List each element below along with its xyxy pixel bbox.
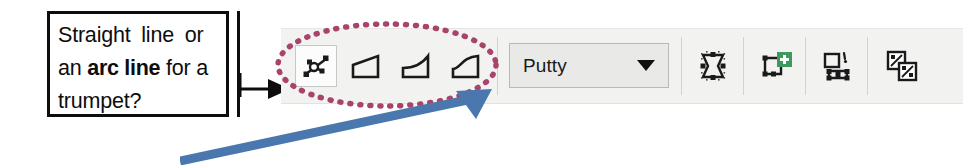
add-node-button[interactable] bbox=[752, 43, 798, 89]
callout-line-2-emphasis: arc line bbox=[87, 56, 160, 80]
s-curve-shape-icon bbox=[449, 51, 483, 81]
edit-nodes-icon bbox=[301, 51, 331, 81]
add-node-icon bbox=[757, 49, 793, 83]
s-curve-shape-tool[interactable] bbox=[445, 45, 487, 87]
edit-nodes-tool[interactable] bbox=[295, 45, 337, 87]
putty-dropdown-value: Putty bbox=[523, 55, 567, 77]
concave-curve-shape-tool[interactable] bbox=[395, 45, 437, 87]
node-bounding-box-icon bbox=[696, 49, 730, 83]
annotation-callout-box: Straight line or an arc line for a trump… bbox=[47, 11, 229, 117]
toolbar-separator bbox=[867, 37, 868, 95]
callout-line-2-suffix: for a bbox=[160, 56, 208, 80]
callout-line-2-prefix: an bbox=[58, 56, 87, 80]
concave-curve-shape-icon bbox=[399, 51, 433, 81]
curve-toolbar: Putty bbox=[281, 28, 963, 104]
duplicate-curves-icon bbox=[884, 48, 920, 84]
toolbar-separator bbox=[805, 37, 806, 95]
node-bounding-box-button[interactable] bbox=[690, 43, 736, 89]
toolbar-separator bbox=[743, 37, 744, 95]
callout-right-rule bbox=[237, 11, 240, 117]
putty-dropdown[interactable]: Putty bbox=[509, 43, 669, 88]
convert-shape-icon bbox=[819, 49, 855, 83]
toolbar-separator bbox=[681, 37, 682, 95]
convert-shape-button[interactable] bbox=[814, 43, 860, 89]
straight-line-shape-icon bbox=[349, 51, 383, 81]
duplicate-curves-button[interactable] bbox=[879, 43, 925, 89]
callout-line-1: Straight line or bbox=[58, 19, 219, 52]
toolbar-separator bbox=[497, 37, 498, 95]
callout-line-2: an arc line for a bbox=[58, 52, 219, 85]
callout-line-3: trumpet? bbox=[58, 85, 219, 118]
straight-line-shape-tool[interactable] bbox=[345, 45, 387, 87]
chevron-down-icon bbox=[637, 60, 655, 71]
